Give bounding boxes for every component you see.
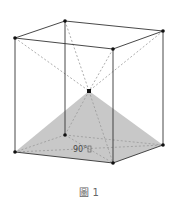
cube-diagram: 90° (0, 0, 178, 203)
angle-label: 90° (73, 145, 87, 154)
figure-caption: 圖 1 (0, 184, 178, 199)
cube-pyramid-figure: 90° 圖 1 (0, 0, 178, 203)
